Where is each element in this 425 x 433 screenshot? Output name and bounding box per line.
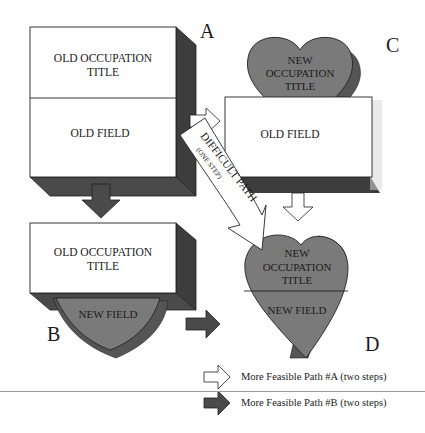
panel-c-letter: C (386, 34, 399, 56)
panel-d-title-line2: OCCUPATION (263, 261, 332, 273)
panel-a-letter: A (200, 20, 215, 42)
panel-a-box (30, 27, 176, 177)
panel-c: NEW OCCUPATION TITLE OLD FIELD C (225, 34, 399, 193)
panel-b-box (30, 223, 176, 293)
panel-a-side-shadow (176, 27, 196, 196)
panel-a-field: OLD FIELD (70, 127, 129, 139)
panel-d-title-line3: TITLE (282, 274, 313, 286)
panel-d-field: NEW FIELD (268, 304, 327, 316)
arrow-c-to-d (283, 193, 313, 221)
panel-c-title-line2: OCCUPATION (266, 67, 335, 79)
panel-d: NEW OCCUPATION TITLE NEW FIELD D (244, 235, 379, 358)
panel-b-letter: B (47, 323, 60, 345)
panel-b-field-shape (56, 298, 160, 350)
legend-dark-arrow-icon (204, 391, 230, 415)
panel-b-title-line2: TITLE (87, 260, 119, 272)
arrow-b-to-d (186, 310, 220, 338)
legend-item-path-a: More Feasible Path #A (two steps) (241, 371, 387, 382)
legend-light-arrow-icon (204, 365, 230, 389)
panel-a: OLD OCCUPATION TITLE OLD FIELD A (30, 20, 215, 196)
panel-c-field: OLD FIELD (260, 128, 319, 140)
legend-item-path-b: More Feasible Path #B (two steps) (241, 397, 387, 408)
panel-c-title-line3: TITLE (285, 80, 316, 92)
panel-a-bottom-shadow (30, 177, 196, 196)
panel-d-letter: D (365, 333, 379, 355)
panel-c-title-line1: NEW (287, 54, 313, 66)
career-path-diagram: OLD OCCUPATION TITLE OLD FIELD A NEW OCC… (0, 0, 425, 433)
panel-d-title-line1: NEW (284, 247, 310, 259)
panel-b-field: NEW FIELD (79, 308, 138, 320)
legend-divider (0, 391, 425, 392)
panel-b-title-line1: OLD OCCUPATION (54, 246, 153, 258)
panel-a-title-line1: OLD OCCUPATION (54, 52, 153, 64)
panel-a-title-line2: TITLE (87, 66, 119, 78)
panel-b: OLD OCCUPATION TITLE NEW FIELD B (30, 223, 196, 358)
